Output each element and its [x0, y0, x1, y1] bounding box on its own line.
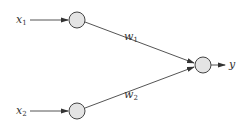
weight-label-w2: w2	[124, 88, 138, 102]
input-label-x2: x2	[16, 104, 27, 118]
input-node-2	[69, 103, 85, 119]
output-node	[195, 57, 211, 73]
weighted-edge-2	[85, 67, 194, 108]
input-node-1	[69, 12, 85, 28]
weighted-edge-1	[85, 22, 194, 63]
weight-label-w1: w1	[124, 30, 138, 44]
output-label-y: y	[228, 58, 236, 71]
input-label-x1: x1	[16, 13, 27, 27]
perceptron-diagram: x1 x2 w1 w2 y	[0, 0, 244, 131]
